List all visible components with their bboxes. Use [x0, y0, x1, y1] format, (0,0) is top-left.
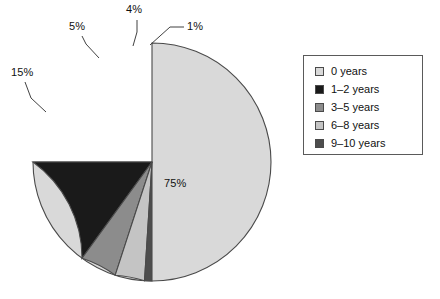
legend: 0 years 1–2 years 3–5 years 6–8 years 9–…: [303, 55, 423, 155]
pie-label-4-percent: 4%: [126, 3, 142, 15]
legend-item-0-years[interactable]: 0 years: [315, 63, 422, 80]
leader-line-15: [25, 82, 46, 112]
legend-item-1-2-years[interactable]: 1–2 years: [315, 81, 422, 98]
leader-line-1: [150, 27, 184, 45]
legend-swatch-icon-0-years: [315, 67, 324, 76]
leader-line-4: [133, 20, 137, 46]
legend-item-6-8-years[interactable]: 6–8 years: [315, 117, 422, 134]
legend-label-9-10-years: 9–10 years: [331, 138, 385, 149]
legend-swatch-icon-9-10-years: [315, 139, 324, 148]
legend-swatch-icon-6-8-years: [315, 121, 324, 130]
pie-label-15-percent: 15%: [11, 66, 33, 78]
legend-swatch-icon-1-2-years: [315, 85, 324, 94]
pie-chart-figure: 15% 5% 4% 1% 75% 0 years 1–2 years 3–5 y…: [0, 0, 440, 299]
legend-item-3-5-years[interactable]: 3–5 years: [315, 99, 422, 116]
pie-label-5-percent: 5%: [69, 20, 85, 32]
leader-line-5: [82, 36, 99, 58]
legend-label-6-8-years: 6–8 years: [331, 120, 379, 131]
pie-label-1-percent: 1%: [187, 20, 203, 32]
legend-label-0-years: 0 years: [331, 66, 367, 77]
legend-label-1-2-years: 1–2 years: [331, 84, 379, 95]
legend-item-9-10-years[interactable]: 9–10 years: [315, 135, 422, 152]
legend-label-3-5-years: 3–5 years: [331, 102, 379, 113]
pie-label-75-percent: 75%: [164, 177, 186, 189]
legend-swatch-icon-3-5-years: [315, 103, 324, 112]
